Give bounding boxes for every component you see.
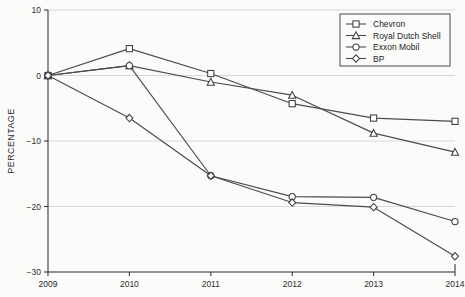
x-tick-label-1: 2010 (120, 279, 139, 289)
data-point-0-5 (452, 118, 458, 124)
x-tick-label-2: 2011 (202, 279, 221, 289)
y-tick-label-4: −30 (27, 267, 42, 277)
data-point-2-5 (452, 218, 458, 224)
data-point-0-3 (289, 101, 295, 107)
legend-label-3: BP (373, 54, 385, 64)
data-point-3-5 (452, 253, 459, 260)
series-exxon-mobil (45, 63, 458, 225)
data-point-1-4 (370, 129, 377, 136)
y-tick-label-1: 0 (36, 71, 41, 81)
x-axis-ticks: 200920102011201220132014 (39, 272, 465, 289)
data-point-0-2 (208, 70, 214, 76)
y-tick-label-2: −10 (27, 136, 42, 146)
x-tick-label-3: 2012 (283, 279, 302, 289)
data-point-0-1 (126, 46, 132, 52)
data-point-0-4 (371, 115, 377, 121)
series-line-3 (48, 76, 455, 257)
y-axis-title: PERCENTAGE (6, 108, 16, 173)
legend: ChevronRoyal Dutch ShellExxon MobilBP (340, 14, 450, 66)
series-bp (45, 72, 459, 260)
legend-label-1: Royal Dutch Shell (373, 31, 441, 41)
legend-marker-square (353, 21, 359, 27)
data-point-2-4 (371, 194, 377, 200)
legend-label-0: Chevron (373, 19, 405, 29)
legend-item-chevron[interactable]: Chevron (346, 19, 405, 29)
line-chart: 100−10−20−30200920102011201220132014PERC… (0, 0, 465, 297)
y-tick-label-3: −20 (27, 202, 42, 212)
data-point-3-1 (126, 114, 133, 121)
x-tick-label-5: 2014 (446, 279, 465, 289)
x-tick-label-0: 2009 (39, 279, 58, 289)
x-tick-label-4: 2013 (364, 279, 383, 289)
data-point-2-1 (126, 63, 132, 69)
y-tick-label-0: 10 (32, 5, 42, 15)
chart-canvas: 100−10−20−30200920102011201220132014PERC… (0, 0, 465, 297)
legend-label-2: Exxon Mobil (373, 42, 419, 52)
data-point-3-4 (370, 203, 377, 210)
series-line-1 (48, 66, 455, 152)
data-point-3-3 (289, 199, 296, 206)
y-axis-ticks: 100−10−20−30 (27, 5, 48, 277)
legend-marker-circle (353, 44, 359, 50)
